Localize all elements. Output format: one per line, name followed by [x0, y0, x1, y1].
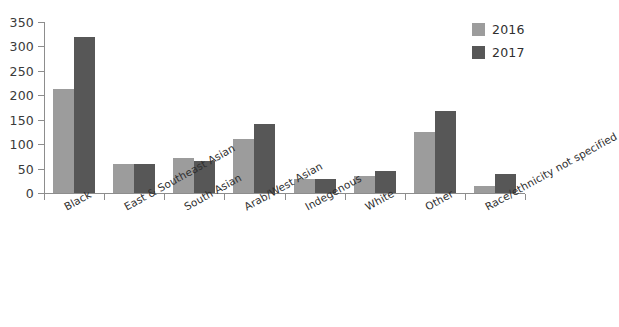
y-tick-label: 0 [26, 186, 34, 201]
y-tick-label: 100 [10, 137, 34, 152]
legend-label: 2016 [492, 22, 525, 37]
bar-group [44, 22, 104, 193]
legend-item: 2017 [472, 45, 525, 60]
bar-2017 [254, 124, 275, 193]
x-tick [465, 194, 466, 200]
bar-group [224, 22, 284, 193]
x-tick [104, 194, 105, 200]
chart-legend: 20162017 [472, 22, 525, 68]
bar-2017 [74, 37, 95, 193]
bar-group [345, 22, 405, 193]
y-tick-label: 300 [10, 39, 34, 54]
plot-area [44, 22, 525, 193]
y-tick-label: 350 [10, 15, 34, 30]
legend-swatch-icon [472, 23, 485, 36]
y-tick-label: 50 [18, 161, 34, 176]
bar-2016 [113, 164, 134, 193]
bar-2017 [435, 111, 456, 193]
x-tick [224, 194, 225, 200]
x-tick [525, 194, 526, 200]
legend-swatch-icon [472, 46, 485, 59]
x-tick [44, 194, 45, 200]
x-tick [345, 194, 346, 200]
legend-label: 2017 [492, 45, 525, 60]
x-tick [164, 194, 165, 200]
bar-2016 [53, 89, 74, 193]
legend-item: 2016 [472, 22, 525, 37]
y-tick-label: 250 [10, 63, 34, 78]
x-tick [405, 194, 406, 200]
x-tick [285, 194, 286, 200]
bar-group [405, 22, 465, 193]
bar-2016 [414, 132, 435, 193]
bar-group [104, 22, 164, 193]
y-tick-label: 150 [10, 112, 34, 127]
y-tick-label: 200 [10, 88, 34, 103]
bar-2016 [474, 186, 495, 193]
